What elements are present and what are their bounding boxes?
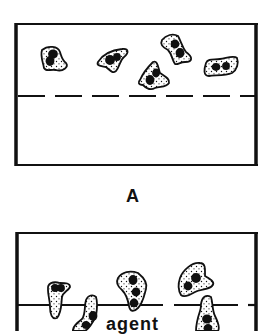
agent-annotation: agent — [106, 314, 159, 335]
cell — [73, 295, 97, 331]
cell — [48, 282, 70, 318]
cell — [139, 62, 169, 90]
cells-a — [41, 35, 237, 90]
cell — [204, 57, 237, 76]
cell — [161, 35, 191, 65]
cell — [196, 296, 219, 331]
panel-label-a: A — [126, 186, 139, 207]
cell — [41, 47, 66, 71]
cell — [98, 49, 128, 72]
cell — [179, 263, 214, 296]
chamber-a — [15, 23, 258, 166]
